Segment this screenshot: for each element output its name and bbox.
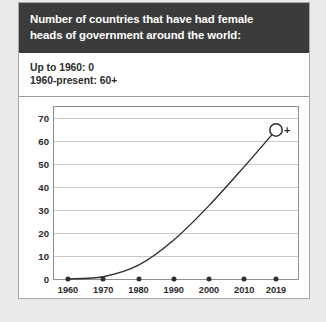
- y-axis-tick-label: 40: [38, 182, 49, 193]
- x-axis-tick-label: 2000: [199, 285, 219, 295]
- chart-title-line-1: Number of countries that have had female: [30, 12, 298, 28]
- x-axis-tick-label: 2010: [234, 285, 254, 295]
- y-axis-tick-label: 50: [38, 159, 49, 170]
- x-axis-tick-label: 2019: [266, 285, 286, 295]
- plot-area: 010203040506070 196019701980199020002010…: [53, 106, 299, 280]
- chart-header: Number of countries that have had female…: [19, 3, 309, 53]
- y-axis-tick-label: 0: [44, 274, 49, 285]
- curve-path: [68, 130, 276, 279]
- chart-title-line-2: heads of government around the world:: [30, 28, 298, 44]
- subtitle-line-up-to-1960: Up to 1960: 0: [30, 61, 298, 74]
- x-axis-tick-label: 1970: [93, 285, 113, 295]
- y-axis-tick-label: 70: [38, 113, 49, 124]
- chart-subtitle: Up to 1960: 0 1960-present: 60+: [19, 53, 309, 97]
- plot-wrapper: 010203040506070 196019701980199020002010…: [29, 106, 299, 302]
- chart-card: Number of countries that have had female…: [18, 2, 310, 299]
- endpoint-open-circle-icon: [270, 124, 282, 136]
- x-axis-tick-label: 1980: [128, 285, 148, 295]
- y-axis-tick-label: 20: [38, 228, 49, 239]
- y-axis-tick-label: 60: [38, 136, 49, 147]
- endpoint-plus-label: +: [284, 124, 290, 136]
- subtitle-line-1960-present: 1960-present: 60+: [30, 74, 298, 87]
- x-axis-tick-label: 1990: [164, 285, 184, 295]
- x-axis-tick-label: 1960: [58, 285, 78, 295]
- y-axis-tick-label: 30: [38, 205, 49, 216]
- y-axis-tick-label: 10: [38, 251, 49, 262]
- trend-curve: [54, 107, 298, 279]
